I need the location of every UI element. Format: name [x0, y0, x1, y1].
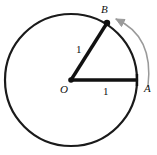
length-label-ob: 1 [76, 44, 82, 55]
point-b-dot [104, 20, 110, 26]
circle-diagram-canvas [0, 0, 157, 155]
arc-arrowhead [116, 19, 125, 27]
length-label-oa: 1 [103, 86, 109, 97]
point-o-dot [68, 77, 74, 83]
point-label-b: B [101, 4, 108, 15]
arc-arrow-path [116, 19, 149, 86]
geometry-figure: O A B 1 1 [0, 0, 157, 155]
point-label-o: O [60, 84, 68, 95]
point-label-a: A [144, 83, 151, 94]
arc-arrow-a-to-b [116, 19, 149, 86]
